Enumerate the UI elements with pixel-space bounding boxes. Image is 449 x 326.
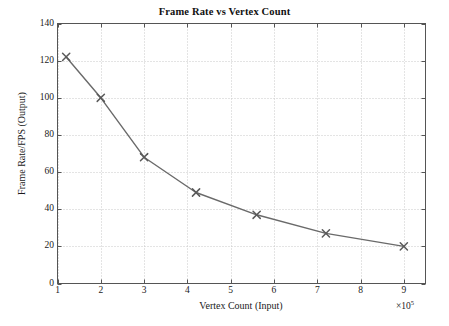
axis-ticks — [58, 24, 426, 285]
chart-figure: Frame Rate vs Vertex Count Frame Rate/FP… — [0, 0, 449, 326]
plot-frame — [58, 24, 426, 284]
data-point-marker — [97, 94, 104, 101]
data-point-marker — [140, 154, 147, 161]
gridlines — [58, 24, 426, 284]
plot-canvas — [0, 0, 449, 326]
series-line — [66, 57, 404, 246]
data-point-marker — [63, 53, 70, 60]
data-series — [63, 53, 408, 250]
data-point-marker — [192, 189, 199, 196]
